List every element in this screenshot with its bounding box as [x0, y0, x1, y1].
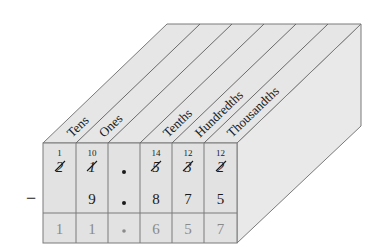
difference-tens: 1 [56, 221, 64, 237]
subtrahend-tenths: 8 [152, 191, 160, 207]
subtrahend-hundredths: 7 [184, 191, 192, 207]
difference-tenths: 6 [152, 221, 160, 237]
difference-thousandths: 7 [217, 221, 225, 237]
minuend-tenths: 5 [152, 159, 160, 175]
subtrahend-ones: 9 [88, 191, 96, 207]
difference-hundredths: 5 [184, 221, 192, 237]
minuend-ones: 1 [88, 159, 96, 175]
minus-sign: − [26, 188, 36, 208]
subtrahend-thousandths: 5 [217, 191, 225, 207]
difference-ones: 1 [88, 221, 96, 237]
place-value-box: Tens Ones Tenths Hundredths Thousandths … [0, 0, 383, 249]
regroup-tenths: 14 [152, 148, 162, 158]
decimal-point-subtrahend [122, 201, 126, 205]
regroup-tens: 1 [57, 148, 62, 158]
regroup-ones: 10 [88, 148, 98, 158]
regroup-hundredths: 12 [184, 148, 193, 158]
regroup-thousandths: 12 [216, 148, 225, 158]
decimal-point-difference [122, 229, 126, 233]
decimal-point-minuend [122, 170, 126, 174]
